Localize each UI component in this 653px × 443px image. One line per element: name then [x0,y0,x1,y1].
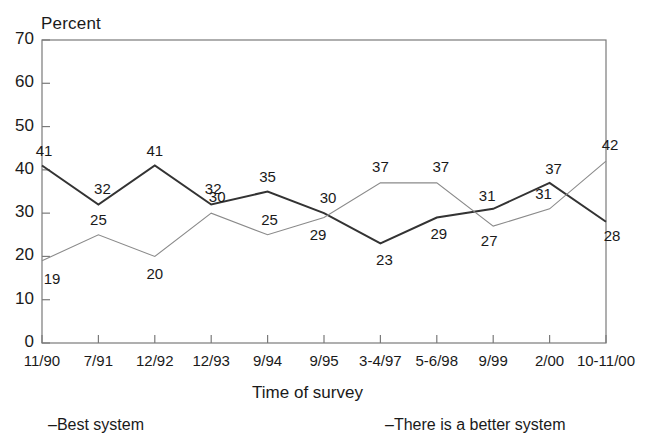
y-tick-label: 0 [4,332,34,352]
x-tick-label: 10-11/00 [561,352,651,369]
value-label: 25 [261,210,278,227]
value-label: 37 [432,157,449,174]
value-label: 29 [310,226,327,243]
value-label: 25 [90,210,107,227]
value-label: 19 [44,269,61,286]
y-tick-label: 30 [4,202,34,222]
value-label: 41 [36,141,53,158]
value-label: 31 [479,186,496,203]
value-label: 31 [535,184,552,201]
legend-item-better-system: –There is a better system [385,416,566,434]
value-label: 32 [94,180,111,197]
y-tick-label: 10 [4,289,34,309]
value-label: 30 [320,189,337,206]
value-label: 42 [602,136,619,153]
chart-container: Percent 706050403020100 11/907/9112/9212… [0,0,653,443]
value-label: 37 [545,159,562,176]
value-label: 30 [209,188,226,205]
value-label: 29 [430,225,447,242]
series-line-better-system [42,161,606,261]
value-label: 37 [372,157,389,174]
value-label: 23 [376,251,393,268]
y-tick-label: 40 [4,159,34,179]
y-tick-label: 70 [4,29,34,49]
x-axis-title: Time of survey [210,383,405,403]
value-label: 35 [259,167,276,184]
value-label: 41 [146,141,163,158]
y-tick-label: 50 [4,116,34,136]
y-tick-label: 60 [4,72,34,92]
y-tick-label: 20 [4,245,34,265]
data-series-lines [42,161,606,261]
value-label: 20 [146,265,163,282]
legend-item-best-system: –Best system [48,416,144,434]
value-label: 27 [481,232,498,249]
value-label: 28 [604,226,621,243]
